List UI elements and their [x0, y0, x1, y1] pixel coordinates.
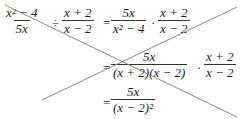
equation-line-1: x² − 4 5x [4, 6, 39, 35]
denominator: (x − 2)² [111, 99, 155, 114]
divide-sign: ÷ [52, 15, 59, 31]
numerator: x² − 4 [4, 6, 39, 20]
numerator: x + 2 [62, 6, 94, 20]
numerator: x + 2 [204, 50, 236, 64]
denominator: x − 2 [204, 64, 236, 79]
equals-sign: = [103, 15, 110, 31]
fraction-5x-over-x2-4: 5x x² − 4 [111, 6, 146, 35]
numerator: 5x [141, 50, 157, 64]
fraction-x+2-over-x-2: x + 2 x − 2 [62, 6, 94, 35]
denominator: (x + 2)(x − 2) [111, 64, 187, 79]
denominator: x² − 4 [111, 20, 146, 35]
numerator: x + 2 [158, 6, 190, 20]
multiply-dot: · [197, 60, 201, 76]
fraction-x2-4-over-5x: x² − 4 5x [4, 6, 39, 35]
denominator: 5x [14, 20, 30, 35]
numerator: 5x [121, 6, 137, 20]
numerator: 5x [125, 85, 141, 99]
fraction-x+2-over-x-2: x + 2 x − 2 [158, 6, 190, 35]
equals-sign: = [103, 60, 110, 76]
fraction-x+2-over-x-2: x + 2 x − 2 [204, 50, 236, 79]
fraction-5x-over-factored: 5x (x + 2)(x − 2) [111, 50, 187, 79]
equals-sign: = [103, 95, 110, 111]
denominator: x − 2 [62, 20, 94, 35]
fraction-5x-over-x-2-squared: 5x (x − 2)² [111, 85, 155, 114]
multiply-dot: · [151, 15, 155, 31]
denominator: x − 2 [158, 20, 190, 35]
